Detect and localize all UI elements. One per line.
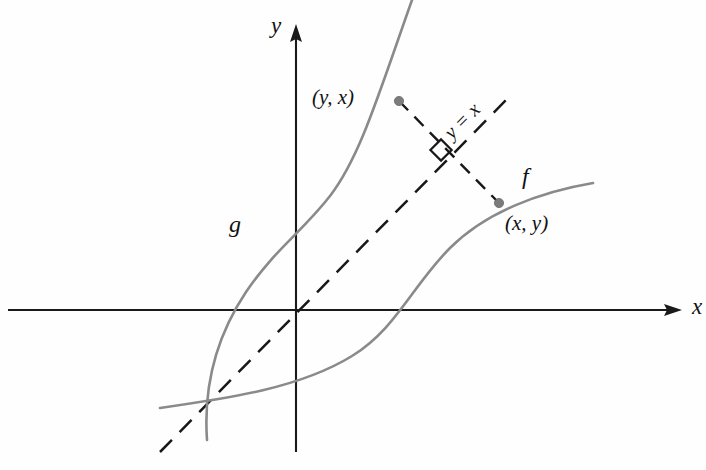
x-axis-label: x (691, 294, 703, 319)
y-axis-label: y (269, 13, 282, 38)
inverse-function-diagram: x y y = x f g (y, x) (x, y) (0, 0, 706, 470)
point-label-x-y: (x, y) (505, 211, 548, 235)
identity-line-group: y = x (160, 94, 512, 452)
point-marker-x-y (494, 198, 503, 207)
curve-label-f: f (522, 163, 532, 189)
identity-line-label: y = x (438, 98, 485, 145)
axes-group: x y (8, 13, 703, 452)
figure-canvas: x y y = x f g (y, x) (x, y) (0, 0, 706, 470)
point-marker-y-x (394, 96, 403, 105)
identity-line-y-equals-x (160, 94, 512, 452)
curve-label-g: g (229, 211, 241, 237)
points-group: (y, x) (x, y) (312, 85, 548, 235)
point-label-y-x: (y, x) (312, 85, 354, 109)
